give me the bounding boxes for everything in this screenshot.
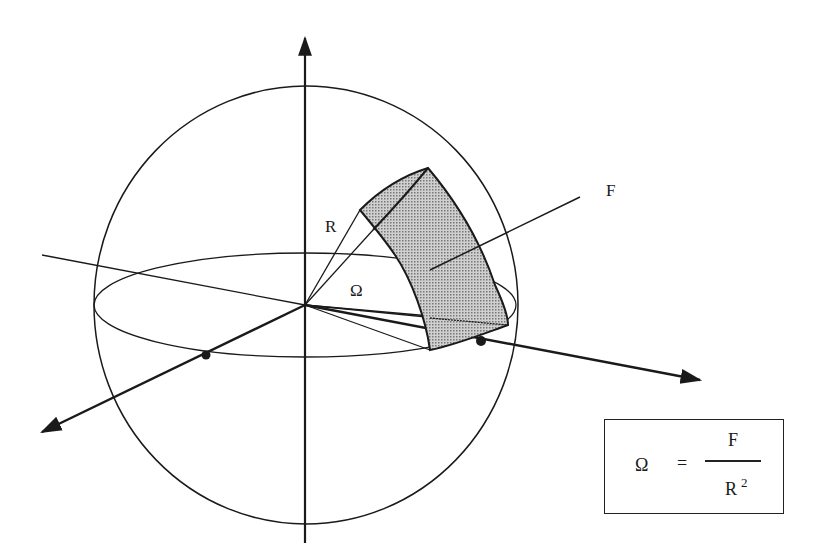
back-axis-line bbox=[42, 255, 305, 305]
fraction-bar bbox=[705, 460, 761, 462]
formula-lhs: Ω bbox=[635, 455, 648, 476]
x-axis bbox=[42, 305, 305, 432]
formula-denominator: R2 bbox=[725, 475, 748, 500]
solid-angle-label: Ω bbox=[350, 281, 363, 300]
cone-line bbox=[305, 305, 430, 316]
formula-box: Ω = F R2 bbox=[604, 419, 784, 514]
formula-denominator-base: R bbox=[725, 479, 737, 499]
x-axis-dot bbox=[202, 351, 211, 360]
formula-equals: = bbox=[677, 453, 687, 474]
formula-exponent: 2 bbox=[741, 475, 748, 490]
area-label: F bbox=[606, 181, 615, 200]
cone-line bbox=[305, 230, 373, 305]
formula-numerator: F bbox=[728, 430, 738, 451]
y-axis-dot bbox=[476, 336, 486, 346]
radius-label: R bbox=[325, 217, 337, 236]
